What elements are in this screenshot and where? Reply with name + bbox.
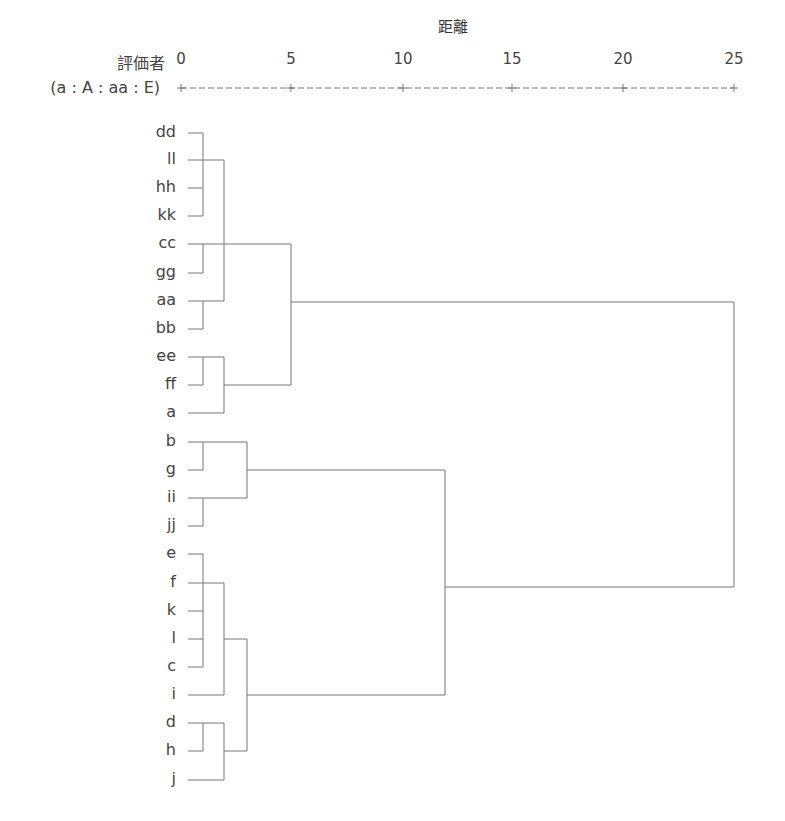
dendrogram (0, 0, 785, 821)
